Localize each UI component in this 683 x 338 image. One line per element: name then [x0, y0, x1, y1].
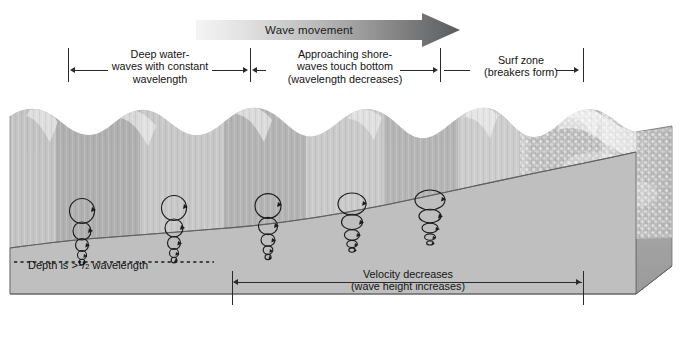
- zone-arrow-deep-right: [243, 67, 248, 73]
- depth-fraction: 1/2: [78, 259, 90, 271]
- zone-label-line: Surf zone: [466, 54, 576, 66]
- velocity-label: Velocity decreases (wave height increase…: [232, 268, 584, 293]
- zone-label-line: Approaching shore-: [262, 48, 428, 60]
- zone-arrow-approach-left: [252, 67, 257, 73]
- zone-arrow-approach-right: [433, 67, 438, 73]
- velocity-cap-right: [583, 271, 584, 305]
- velocity-arrow-left: [233, 279, 238, 285]
- zone-bracket-band: Deep water- waves with constant waveleng…: [0, 48, 683, 100]
- velocity-label-line: Velocity decreases: [232, 268, 584, 280]
- zone-rule-deep-right: [212, 70, 246, 71]
- zone-label-line: (wavelength decreases): [262, 73, 428, 85]
- zone-label-line: Deep water-: [78, 48, 242, 60]
- zone-divider-a: [250, 48, 251, 82]
- zone-divider-b: [440, 48, 441, 82]
- zone-divider-right: [583, 48, 584, 82]
- depth-annotation: Depth is >1/2 wavelength: [28, 259, 148, 271]
- wave-movement-arrow: Wave movement: [196, 13, 460, 47]
- velocity-rule: [234, 282, 582, 283]
- wave-movement-label: Wave movement: [196, 13, 422, 47]
- velocity-cap-left: [232, 271, 233, 305]
- zone-arrow-surf-right: [574, 67, 579, 73]
- zone-arrow-deep-left: [70, 67, 75, 73]
- depth-prefix: Depth is: [28, 259, 71, 271]
- zone-label-line: (breakers form): [466, 66, 576, 78]
- zone-label-line: wavelength: [78, 73, 242, 85]
- velocity-annotation: Velocity decreases (wave height increase…: [232, 268, 584, 302]
- wave-diagram: Wave movement Deep water- waves with con…: [0, 0, 683, 338]
- depth-suffix: wavelength: [89, 259, 148, 271]
- zone-divider-left: [68, 48, 69, 82]
- velocity-arrow-right: [576, 279, 581, 285]
- zone-rule-approach-right: [400, 70, 434, 71]
- zone-label-surf-zone: Surf zone (breakers form): [466, 54, 576, 98]
